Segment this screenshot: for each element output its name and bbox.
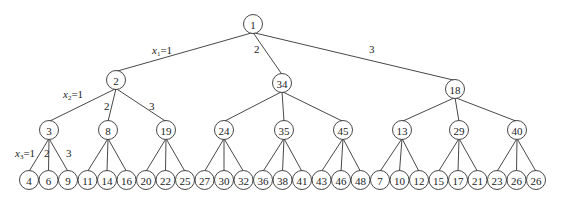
edge-label: 3	[66, 147, 72, 159]
tree-edge	[402, 139, 419, 172]
tree-node: 30	[215, 171, 234, 190]
tree-edge	[282, 92, 284, 122]
edge-labels: x1=123x2=123x3=123	[14, 43, 375, 161]
node-label: 40	[512, 125, 524, 137]
edge-label: 3	[149, 100, 155, 112]
node-label: 17	[453, 175, 465, 187]
tree-edge	[322, 139, 344, 172]
tree-edge	[343, 139, 361, 172]
node-label: 12	[414, 175, 425, 187]
tree-node: 1	[244, 15, 263, 34]
tree-edge	[116, 89, 166, 122]
tree-edge	[400, 139, 403, 172]
node-label: 26	[531, 175, 543, 187]
node-label: 9	[65, 175, 71, 187]
tree-edge	[205, 139, 225, 172]
tree-node: 17	[449, 171, 468, 190]
node-label: 24	[219, 125, 231, 137]
tree-node: 38	[273, 171, 292, 190]
node-label: 10	[394, 175, 406, 187]
tree-node: 3	[40, 121, 59, 140]
tree-edge	[380, 139, 402, 172]
tree-node: 8	[99, 121, 118, 140]
node-label: 1	[250, 19, 256, 31]
tree-edge	[116, 33, 253, 72]
node-label: 45	[338, 125, 350, 137]
tree-edge	[146, 139, 166, 172]
node-label: 15	[433, 175, 445, 187]
tree-node: 48	[351, 171, 370, 190]
edge-label: x2=1	[62, 88, 83, 102]
node-label: 21	[472, 175, 483, 187]
tree-node: 12	[410, 171, 429, 190]
edge-label: x3=1	[14, 147, 35, 161]
node-label: 35	[279, 125, 291, 137]
tree-node: 36	[254, 171, 273, 190]
tree-node: 16	[117, 171, 136, 190]
tree-node: 10	[390, 171, 409, 190]
tree-edge	[224, 92, 282, 122]
node-label: 6	[46, 175, 52, 187]
tree-node: 18	[446, 80, 465, 99]
tree-node: 26	[527, 171, 546, 190]
tree-node: 9	[59, 171, 78, 190]
node-label: 20	[141, 175, 153, 187]
node-label: 13	[397, 125, 409, 137]
tree-edge	[497, 139, 517, 172]
node-label: 43	[316, 175, 328, 187]
node-label: 4	[26, 175, 32, 187]
node-label: 8	[105, 125, 111, 137]
tree-node: 24	[215, 121, 234, 140]
node-label: 22	[160, 175, 171, 187]
edge-label: 2	[44, 147, 50, 159]
node-label: 38	[277, 175, 289, 187]
tree-node: 13	[393, 121, 412, 140]
tree-edge	[517, 139, 536, 172]
tree-node: 19	[157, 121, 176, 140]
tree-edge	[455, 98, 517, 122]
node-label: 19	[161, 125, 173, 137]
node-label: 48	[355, 175, 367, 187]
tree-node: 45	[334, 121, 353, 140]
tree-node: 41	[293, 171, 312, 190]
node-label: 23	[492, 175, 504, 187]
edge-label: 3	[369, 43, 375, 55]
node-label: 3	[46, 125, 52, 137]
node-label: 27	[199, 175, 211, 187]
tree-edge	[107, 139, 108, 172]
node-label: 34	[277, 78, 289, 90]
tree-node: 15	[429, 171, 448, 190]
tree-edge	[517, 139, 518, 172]
tree-node: 20	[137, 171, 156, 190]
node-label: 11	[82, 175, 93, 187]
search-tree-diagram: 1234183819243545132940469111416202225273…	[0, 0, 562, 198]
tree-node: 43	[312, 171, 331, 190]
tree-edge	[402, 98, 455, 122]
edge-label: 2	[104, 100, 110, 112]
edge-label: x1=1	[151, 44, 172, 58]
tree-edge	[455, 98, 459, 122]
tree-node: 40	[508, 121, 527, 140]
tree-edge	[166, 139, 167, 172]
tree-edge	[341, 139, 343, 172]
tree-node: 29	[450, 121, 469, 140]
edge-label: 2	[254, 43, 260, 55]
tree-node: 2	[107, 71, 126, 90]
node-label: 36	[258, 175, 270, 187]
tree-node: 14	[98, 171, 117, 190]
node-label: 30	[219, 175, 231, 187]
tree-edge	[263, 139, 284, 172]
tree-edge	[108, 139, 127, 172]
node-label: 16	[121, 175, 133, 187]
tree-edge	[459, 139, 478, 172]
node-label: 2	[113, 75, 119, 87]
tree-node: 34	[273, 74, 292, 93]
tree-node: 21	[468, 171, 487, 190]
tree-edge	[88, 139, 109, 172]
node-label: 46	[336, 175, 348, 187]
node-label: 41	[297, 175, 308, 187]
tree-edge	[282, 92, 343, 122]
tree-node: 4	[20, 171, 39, 190]
tree-node: 11	[78, 171, 97, 190]
tree-edge	[166, 139, 185, 172]
